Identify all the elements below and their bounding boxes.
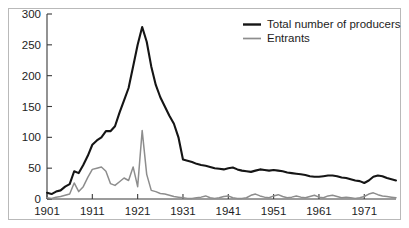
- series-line-total-number-of-producers: [47, 27, 396, 194]
- chart-legend: Total number of producers Entrants: [243, 18, 401, 44]
- x-tick-label: 1951: [261, 205, 287, 217]
- x-tick-label: 1911: [80, 205, 105, 217]
- x-tick-label: 1971: [351, 205, 377, 217]
- y-axis: 050100150200250300: [22, 8, 52, 205]
- x-tick-label: 1941: [216, 205, 242, 217]
- x-tick-label: 1921: [125, 205, 151, 217]
- line-chart-plot: 050100150200250300 190119111921193119411…: [0, 0, 409, 228]
- x-tick-label: 1961: [306, 205, 332, 217]
- legend-label-producers: Total number of producers: [267, 18, 401, 30]
- y-tick-label: 200: [22, 70, 41, 82]
- y-tick-label: 50: [28, 162, 41, 174]
- chart-figure: 050100150200250300 190119111921193119411…: [0, 0, 409, 228]
- y-tick-label: 100: [22, 131, 41, 143]
- y-tick-label: 300: [22, 8, 41, 20]
- y-tick-label: 0: [35, 193, 41, 205]
- y-tick-label: 150: [22, 101, 41, 113]
- data-series-group: [47, 27, 396, 198]
- x-tick-label: 1901: [34, 205, 60, 217]
- y-tick-label: 250: [22, 39, 41, 51]
- legend-label-entrants: Entrants: [267, 32, 310, 44]
- x-tick-label: 1931: [170, 205, 196, 217]
- series-line-entrants: [47, 131, 396, 199]
